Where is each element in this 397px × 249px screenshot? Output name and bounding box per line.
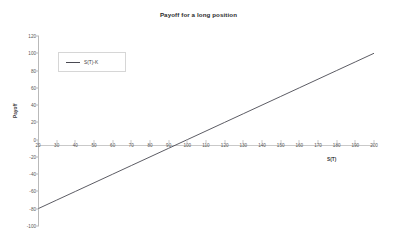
x-tick-label: 120 — [221, 143, 229, 148]
x-tick-label: 70 — [129, 143, 134, 148]
x-tick-mark — [168, 140, 169, 143]
x-tick-mark — [374, 140, 375, 143]
x-tick-mark — [243, 140, 244, 143]
x-tick-label: 170 — [314, 143, 322, 148]
x-tick-mark — [38, 140, 39, 143]
x-axis-label: S(T) — [327, 157, 336, 162]
x-tick-label: 30 — [54, 143, 59, 148]
x-tick-label: 50 — [91, 143, 96, 148]
x-tick-mark — [318, 140, 319, 143]
y-tick-label: 120 — [28, 34, 36, 39]
y-tick-mark — [36, 105, 39, 106]
x-tick-label: 60 — [110, 143, 115, 148]
legend-line-swatch — [66, 62, 80, 63]
legend-entry-label: S(T)-K — [84, 60, 98, 65]
x-tick-mark — [336, 140, 337, 143]
x-tick-label: 40 — [73, 143, 78, 148]
x-tick-mark — [280, 140, 281, 143]
y-tick-mark — [36, 87, 39, 88]
x-tick-mark — [262, 140, 263, 143]
x-tick-mark — [299, 140, 300, 143]
chart-title: Payoff for a long position — [0, 11, 397, 18]
x-tick-label: 140 — [258, 143, 266, 148]
x-tick-label: 80 — [147, 143, 152, 148]
x-tick-label: 20 — [35, 143, 40, 148]
y-tick-mark — [36, 53, 39, 54]
x-tick-label: 160 — [295, 143, 303, 148]
x-tick-label: 150 — [277, 143, 285, 148]
chart-legend: S(T)-K — [58, 52, 126, 72]
y-tick-label: 100 — [28, 51, 36, 56]
y-tick-mark — [36, 156, 39, 157]
y-axis-label: Payoff — [13, 103, 18, 118]
x-tick-mark — [187, 140, 188, 143]
x-tick-mark — [224, 140, 225, 143]
x-tick-label: 100 — [183, 143, 191, 148]
y-tick-label: -40 — [29, 172, 36, 177]
y-tick-label: -80 — [29, 206, 36, 211]
x-tick-mark — [112, 140, 113, 143]
payoff-chart: Payoff for a long position 1201008060402… — [0, 0, 397, 249]
y-tick-mark — [36, 70, 39, 71]
x-tick-label: 130 — [239, 143, 247, 148]
x-tick-label: 90 — [166, 143, 171, 148]
y-tick-mark — [36, 191, 39, 192]
x-tick-mark — [206, 140, 207, 143]
y-tick-label: -20 — [29, 154, 36, 159]
x-tick-label: 180 — [333, 143, 341, 148]
y-tick-mark — [36, 122, 39, 123]
x-tick-mark — [56, 140, 57, 143]
x-tick-mark — [355, 140, 356, 143]
x-tick-mark — [150, 140, 151, 143]
y-tick-mark — [36, 226, 39, 227]
x-tick-mark — [75, 140, 76, 143]
x-tick-mark — [131, 140, 132, 143]
y-tick-label: -100 — [27, 224, 36, 229]
y-tick-mark — [36, 174, 39, 175]
x-tick-mark — [94, 140, 95, 143]
x-tick-label: 200 — [370, 143, 378, 148]
y-tick-mark — [36, 36, 39, 37]
y-tick-label: -60 — [29, 189, 36, 194]
x-tick-label: 110 — [202, 143, 209, 148]
y-tick-mark — [36, 208, 39, 209]
x-tick-label: 190 — [351, 143, 359, 148]
series-line — [38, 53, 374, 208]
